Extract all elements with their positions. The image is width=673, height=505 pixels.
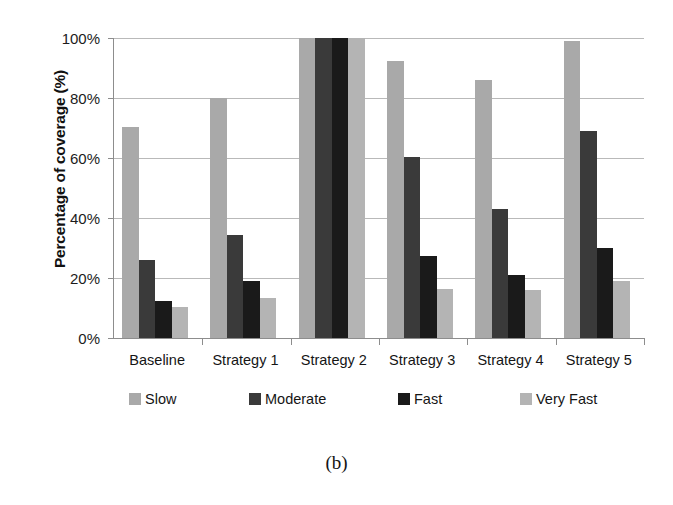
legend-item[interactable]: Slow — [129, 391, 176, 407]
bar-group — [291, 38, 379, 338]
legend-label: Moderate — [265, 391, 326, 407]
bar — [299, 38, 316, 338]
bar — [404, 157, 421, 339]
bar — [139, 260, 156, 338]
bar — [613, 281, 630, 338]
x-tick-mark — [467, 338, 468, 345]
figure: Percentage of coverage (%) 0%20%40%60%80… — [0, 0, 673, 505]
y-tick-label: 0% — [30, 330, 100, 347]
bar-group — [114, 38, 202, 338]
legend-swatch-icon — [129, 393, 141, 405]
bar — [580, 131, 597, 338]
legend-item[interactable]: Very Fast — [520, 391, 597, 407]
bar — [437, 289, 454, 339]
legend-swatch-icon — [249, 393, 261, 405]
y-tick-label: 100% — [30, 30, 100, 47]
x-tick-mark — [644, 338, 645, 345]
plot-area: 0%20%40%60%80%100% — [113, 38, 644, 339]
bar — [243, 281, 260, 338]
bar — [122, 127, 139, 339]
y-tick-label: 80% — [30, 90, 100, 107]
bar-group — [202, 38, 290, 338]
bar — [475, 80, 492, 338]
bar-group — [379, 38, 467, 338]
x-axis-label: Strategy 5 — [555, 352, 643, 368]
x-axis-label: Strategy 4 — [466, 352, 554, 368]
legend-swatch-icon — [398, 393, 410, 405]
bar — [210, 98, 227, 338]
y-tick-label: 40% — [30, 210, 100, 227]
legend-label: Very Fast — [536, 391, 597, 407]
bar — [172, 307, 189, 339]
bar — [525, 290, 542, 338]
x-axis-label: Strategy 3 — [378, 352, 466, 368]
x-axis-label: Strategy 1 — [201, 352, 289, 368]
legend-swatch-icon — [520, 393, 532, 405]
bar — [348, 38, 365, 338]
bar — [227, 235, 244, 339]
figure-caption: (b) — [0, 452, 673, 474]
chart-legend: SlowModerateFastVery Fast — [113, 391, 643, 413]
x-axis-label: Strategy 2 — [290, 352, 378, 368]
bar-group — [467, 38, 555, 338]
x-tick-mark — [202, 338, 203, 345]
bar — [387, 61, 404, 339]
x-axis-labels: BaselineStrategy 1Strategy 2Strategy 3St… — [113, 352, 643, 378]
x-tick-mark — [556, 338, 557, 345]
bar — [420, 256, 437, 339]
y-tick-mark — [108, 338, 114, 339]
x-tick-mark — [379, 338, 380, 345]
bar — [155, 301, 172, 339]
x-axis-label: Baseline — [113, 352, 201, 368]
bar — [260, 298, 277, 339]
bar — [315, 38, 332, 338]
legend-label: Slow — [145, 391, 176, 407]
y-tick-label: 20% — [30, 270, 100, 287]
bar — [492, 209, 509, 338]
bar — [564, 41, 581, 338]
bar-group — [556, 38, 644, 338]
bars-layer — [114, 38, 644, 338]
legend-label: Fast — [414, 391, 442, 407]
bar — [508, 275, 525, 338]
x-tick-mark — [291, 338, 292, 345]
legend-item[interactable]: Moderate — [249, 391, 326, 407]
bar — [597, 248, 614, 338]
bar — [332, 38, 349, 338]
y-tick-label: 60% — [30, 150, 100, 167]
legend-item[interactable]: Fast — [398, 391, 442, 407]
